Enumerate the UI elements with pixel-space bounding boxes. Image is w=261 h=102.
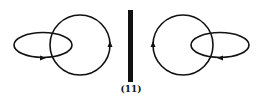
right-circle-arrow-icon xyxy=(151,41,156,47)
left-diagram xyxy=(14,15,110,75)
left-circle-loop xyxy=(50,15,110,75)
left-ellipse-loop xyxy=(14,33,72,58)
left-ellipse-arrow-icon xyxy=(40,56,46,61)
right-ellipse-arrow-icon xyxy=(217,56,223,61)
divider-bar xyxy=(128,10,133,82)
left-circle-arrow-icon xyxy=(108,41,113,47)
right-diagram xyxy=(153,15,249,75)
right-circle-loop xyxy=(153,15,213,75)
right-ellipse-loop xyxy=(191,33,249,58)
figure-label: (11) xyxy=(119,84,143,94)
